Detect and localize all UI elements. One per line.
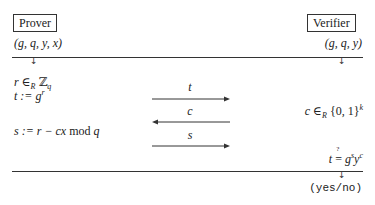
prover-step-random: r ∈R ℤq — [14, 75, 51, 90]
prover-label-box: Prover — [13, 14, 57, 32]
message-t-label: t — [152, 80, 228, 95]
prover-down-arrow-icon: ↓ — [30, 57, 38, 66]
message-s-arrow-icon — [152, 143, 230, 149]
message-c-arrow-icon — [152, 119, 230, 125]
verifier-label-box: Verifier — [307, 14, 356, 32]
message-t-arrow-icon — [152, 96, 230, 102]
top-divider — [12, 57, 363, 58]
message-s-label: s — [152, 128, 228, 143]
output-down-arrow-icon: ↓ — [338, 171, 346, 180]
verifier-inputs: (g, q, y) — [325, 36, 362, 51]
verifier-step-check: t ?= gsyc — [329, 152, 363, 167]
bottom-divider — [12, 171, 363, 172]
prover-step-response: s := r − cx mod q — [14, 124, 100, 139]
prover-label: Prover — [19, 16, 51, 30]
verifier-step-challenge: c ∈R {0, 1}k — [305, 104, 363, 119]
prover-inputs: (g, q, y, x) — [14, 36, 62, 51]
verifier-label: Verifier — [313, 16, 350, 30]
prover-step-commit: t := gr — [14, 89, 45, 104]
verifier-down-arrow-icon: ↓ — [338, 57, 346, 66]
message-c-label: c — [152, 104, 228, 119]
verifier-output: (yes/no) — [309, 182, 362, 194]
